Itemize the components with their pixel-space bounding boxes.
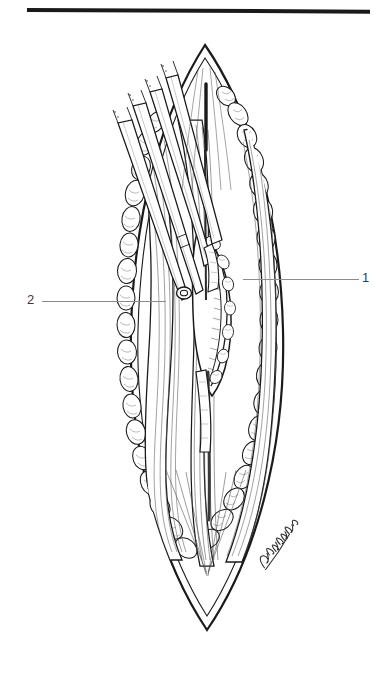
figure-root: 2 1 (0, 0, 377, 676)
callout-1-number: 1 (362, 271, 369, 284)
artist-signature (247, 512, 311, 570)
illustration-canvas (0, 0, 377, 676)
callout-2-number: 2 (27, 293, 34, 306)
callout-2-leader-line (42, 301, 166, 302)
retractor-pivot-ring[interactable] (177, 287, 192, 299)
callout-1-leader-line (243, 279, 359, 280)
